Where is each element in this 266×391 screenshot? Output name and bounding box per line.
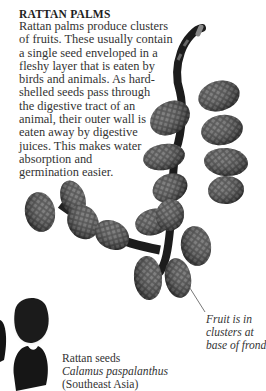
caption-line: clusters at xyxy=(206,326,266,339)
seeds-title: Rattan seeds xyxy=(62,352,168,365)
leader-line xyxy=(188,285,205,312)
body-line: eaten away by digestive xyxy=(19,126,161,139)
body-line: germination easier. xyxy=(19,166,161,179)
body-line: animal, their outer wall is xyxy=(19,113,161,126)
seeds-region: (Southeast Asia) xyxy=(62,378,168,391)
seeds-caption: Rattan seeds Calamus paspalanthus (South… xyxy=(62,352,168,391)
body-line: the digestive tract of an xyxy=(19,100,161,113)
caption-line: base of frond xyxy=(206,339,266,352)
body-line: a single seed enveloped in a xyxy=(19,47,161,60)
seed-images xyxy=(0,298,49,391)
seeds-latin-name: Calamus paspalanthus xyxy=(62,365,168,378)
body-line: Rattan palms produce clusters xyxy=(19,20,161,33)
body-line: birds and animals. As hard- xyxy=(19,73,161,86)
body-paragraph: Rattan palms produce clusters of fruits.… xyxy=(19,20,161,180)
body-line: shelled seeds pass through xyxy=(19,86,161,99)
body-line: fleshy layer that is eaten by xyxy=(19,60,161,73)
body-line: juices. This makes water xyxy=(19,140,161,153)
fruit-caption: Fruit is in clusters at base of frond xyxy=(206,313,266,352)
caption-line: Fruit is in xyxy=(206,313,266,326)
body-line: of fruits. These usually contain xyxy=(19,33,161,46)
body-line: absorption and xyxy=(19,153,161,166)
